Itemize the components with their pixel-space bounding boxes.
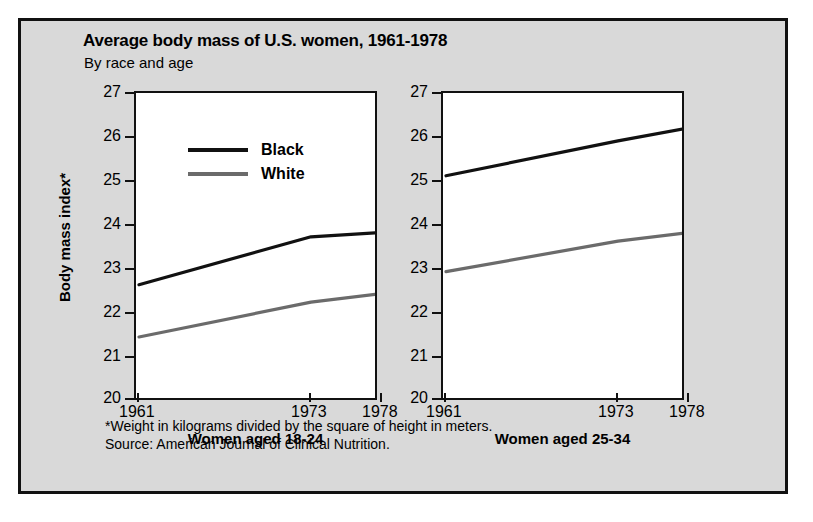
tick-mark [432,312,441,314]
tick-mark [125,312,134,314]
chart-figure: Average body mass of U.S. women, 1961-19… [18,18,788,494]
chart-title: Average body mass of U.S. women, 1961-19… [83,31,447,51]
tick-mark [444,393,446,402]
chart-subtitle: By race and age [84,54,193,71]
tick-mark [125,268,134,270]
tick-mark [432,398,441,400]
line-series-black [139,232,375,284]
tick-mark [432,136,441,138]
tick-mark [687,393,689,402]
tick-mark [432,356,441,358]
line-series-white [446,232,682,271]
legend-item-white: White [188,162,348,186]
tick-mark [137,393,139,402]
tick-mark [125,136,134,138]
y-axis-ticks-right: 27 26 25 24 23 22 21 20 [401,91,441,400]
legend-label-black: Black [261,142,304,158]
legend-swatch-white [188,172,248,176]
tick-mark [432,92,441,94]
tick-mark [380,393,382,402]
tick-mark [432,268,441,270]
tick-mark [125,224,134,226]
legend: Black White [188,138,348,186]
footnote-definition: *Weight in kilograms divided by the squa… [105,417,492,435]
tick-mark [309,393,311,402]
footnotes: *Weight in kilograms divided by the squa… [105,417,492,454]
line-series-black [446,128,682,176]
plot-area-right [441,91,684,400]
legend-item-black: Black [188,138,348,162]
legend-swatch-black [188,148,248,152]
y-axis-ticks-left: 27 26 25 24 23 22 21 20 [94,91,134,400]
line-series-white [139,293,375,337]
y-axis-label: Body mass index* [56,143,73,333]
tick-mark [432,224,441,226]
tick-mark [125,398,134,400]
series-lines-right [443,93,682,398]
tick-mark [125,356,134,358]
tick-mark [125,180,134,182]
tick-mark [125,92,134,94]
tick-mark [432,180,441,182]
tick-mark [616,393,618,402]
footnote-source: Source: American Journal of Clinical Nut… [105,435,492,453]
plot-area-left: Black White [134,91,377,400]
legend-label-white: White [261,166,305,182]
